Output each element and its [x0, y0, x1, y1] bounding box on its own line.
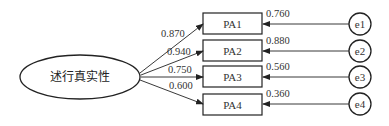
svg-text:PA4: PA4: [223, 99, 242, 111]
latent-label: 述行真实性: [50, 69, 110, 84]
loading-pa2: 0.940: [167, 46, 191, 57]
loading-pa4: 0.600: [169, 80, 193, 91]
r2-labels: 0.760 0.880 0.560 0.360: [266, 8, 290, 99]
svg-text:PA3: PA3: [223, 71, 242, 83]
r2-pa3: 0.560: [266, 61, 290, 72]
indicator-pa2: PA2: [203, 40, 262, 61]
indicator-pa1: PA1: [203, 13, 262, 34]
r2-pa2: 0.880: [266, 35, 290, 46]
svg-text:e3: e3: [355, 71, 366, 83]
svg-text:PA2: PA2: [223, 45, 242, 57]
loading-pa1: 0.870: [161, 28, 185, 39]
sem-diagram: 述行真实性 0.870 0.940 0.750 0.600 PA1 PA2 PA…: [0, 0, 389, 126]
error-e4: e4: [349, 93, 371, 115]
indicator-pa3: PA3: [203, 66, 262, 87]
latent-variable: 述行真实性: [20, 55, 140, 99]
error-e1: e1: [349, 13, 371, 35]
error-e3: e3: [349, 66, 371, 88]
r2-pa1: 0.760: [266, 8, 290, 19]
indicator-pa4: PA4: [203, 94, 262, 115]
svg-text:PA1: PA1: [223, 18, 242, 30]
svg-text:e2: e2: [355, 45, 365, 57]
svg-text:e4: e4: [355, 98, 366, 110]
loading-labels: 0.870 0.940 0.750 0.600: [161, 28, 193, 91]
loading-pa3: 0.750: [168, 64, 192, 75]
svg-text:e1: e1: [355, 18, 365, 30]
r2-pa4: 0.360: [266, 88, 290, 99]
error-e2: e2: [349, 40, 371, 62]
